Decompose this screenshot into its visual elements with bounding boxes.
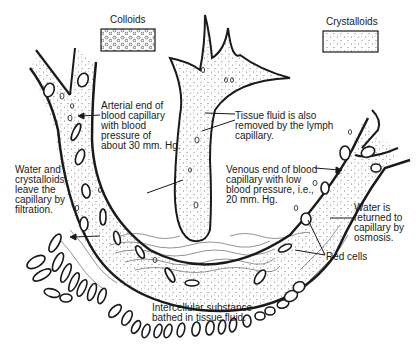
label-intercellular-substance: Intercellular substance bathed in tissue… [152, 303, 252, 323]
legend-colloids-swatch [101, 29, 155, 51]
label-arterial-end: Arterial end of blood capillary with blo… [101, 101, 180, 151]
legend-crystalloids-label: Crystalloids [326, 16, 378, 27]
label-lymph-removal: Tissue fluid is also removed by the lymp… [235, 111, 333, 141]
label-osmosis: Water is returned to capillary by osmosi… [354, 203, 404, 243]
label-venous-end: Venous end of blood capillary with low b… [226, 165, 317, 205]
label-filtration: Water and crystalloids leave the capilla… [15, 165, 65, 215]
label-red-cells: Red cells [326, 252, 367, 262]
legend-crystalloids-swatch [323, 31, 378, 52]
legend-colloids-label: Colloids [110, 14, 146, 25]
